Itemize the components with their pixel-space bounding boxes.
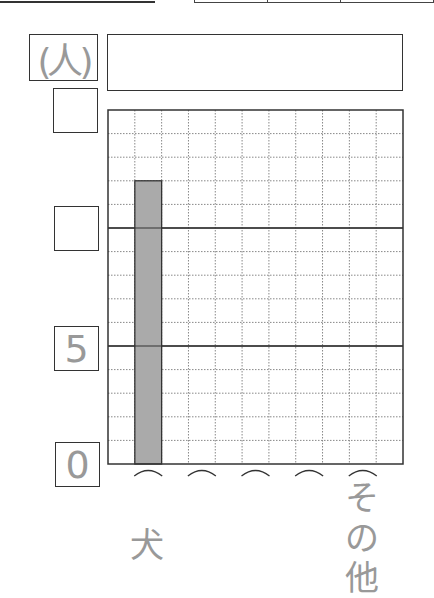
bar-0 <box>135 181 162 464</box>
category-bracket-icon <box>295 471 323 477</box>
category-bracket-icon <box>242 471 270 477</box>
category-bracket-icon <box>349 471 377 477</box>
category-label-dog: 犬 <box>127 528 167 562</box>
category-label-char: そ <box>345 478 379 518</box>
category-label-text: 犬 <box>130 525 164 565</box>
category-label-char: 他 <box>345 558 379 598</box>
category-bracket-icon <box>188 471 216 477</box>
category-bracket-icon <box>134 471 162 477</box>
category-label-char: の <box>345 518 379 558</box>
category-label-other: その他 <box>342 478 382 598</box>
